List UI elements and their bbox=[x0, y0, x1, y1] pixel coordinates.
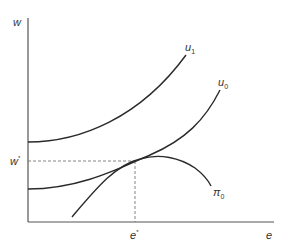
pi0-label: π0 bbox=[213, 186, 224, 200]
u1-label: u1 bbox=[185, 41, 195, 55]
w-star-label: w* bbox=[10, 155, 21, 167]
pi0-curve bbox=[72, 156, 211, 217]
e-star-label: e* bbox=[130, 229, 139, 241]
y-axis-label: w bbox=[13, 16, 22, 28]
u1-curve bbox=[28, 55, 186, 142]
u0-label: u0 bbox=[218, 76, 228, 90]
diagram-canvas: w e w* e* u1 u0 π0 bbox=[0, 0, 283, 247]
x-axis-label: e bbox=[266, 229, 272, 241]
